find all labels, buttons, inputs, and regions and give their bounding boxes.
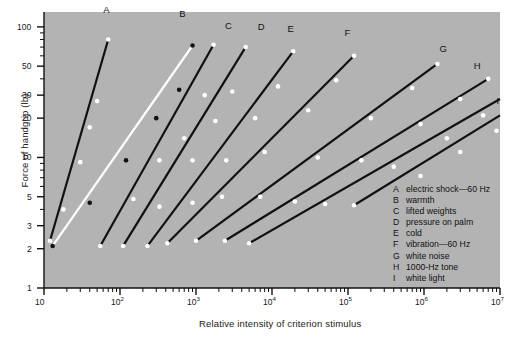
data-point-E [306,108,311,113]
data-point-F [194,238,199,243]
data-point-E [220,194,225,199]
x-tick-label: 10 [35,297,44,307]
legend-item-label: white noise [406,251,449,262]
data-point-A [87,125,92,130]
figure-root: 10102103104105106107 100503020105321 ABC… [0,0,519,341]
data-point-E [334,78,339,83]
legend-item-label: vibration—60 Hz [406,239,470,250]
data-point-F [410,86,415,91]
series-label-B: B [179,8,185,19]
data-point-F [369,116,374,121]
data-point-B2 [98,244,103,249]
data-point-B2 [131,197,136,202]
data-point-F [258,194,263,199]
series-label-G: G [440,43,447,54]
data-point-H [481,113,486,118]
data-point-E [352,54,357,59]
data-point-B [87,200,92,205]
legend-item: Iwhite light [393,273,517,284]
x-tick-label: 105 [339,297,352,307]
data-point-B [190,43,195,48]
data-point-E [262,150,267,155]
data-point-D [145,244,150,249]
legend-item-label: electric shock—60 Hz [406,184,490,195]
data-point-D [224,158,229,163]
x-tick-label: 104 [263,297,276,307]
legend-item-key: I [393,273,406,284]
data-point-I [494,128,499,133]
series-label-F: F [345,27,351,38]
data-point-I [352,203,357,208]
legend-item-label: lifted weights [406,206,456,217]
data-point-A [106,37,111,42]
legend-item-key: H [393,262,406,273]
legend-item: Aelectric shock—60 Hz [393,184,517,195]
legend-item-label: white light [406,273,445,284]
legend-item-key: G [393,251,406,262]
data-point-I [418,174,423,179]
x-tick-label: 107 [491,297,504,307]
legend-item: Clifted weights [393,206,517,217]
data-point-C [121,244,126,249]
data-point-F [315,155,320,160]
legend-item: Gwhite noise [393,251,517,262]
data-point-G [486,77,491,82]
legend-item: Fvibration—60 Hz [393,239,517,250]
legend-item-label: cold [406,228,422,239]
data-point-D [291,49,296,54]
data-point-G [418,122,423,127]
y-tick-label: 50 [22,61,31,71]
data-point-B [177,87,182,92]
y-tick-label: 2 [27,244,32,254]
y-tick-label: 3 [27,221,32,231]
legend-item-key: B [393,195,406,206]
data-point-B [154,116,159,121]
data-point-C [157,204,162,209]
legend-item-label: pressure on palm [406,217,473,228]
series-label-D: D [258,21,265,32]
data-point-B2 [157,158,162,163]
data-point-H [323,202,328,207]
legend-item-key: A [393,184,406,195]
legend-item-key: F [393,239,406,250]
x-tick-label: 106 [415,297,428,307]
series-label-H: H [474,60,481,71]
data-point-D [253,116,258,121]
series-label-C: C [225,20,232,31]
data-point-B [50,244,55,249]
data-point-D [276,84,281,89]
data-point-H [247,241,252,246]
data-point-A [95,99,100,104]
data-point-A [61,207,66,212]
data-point-G [458,97,463,102]
x-tick-label: 103 [187,297,200,307]
legend-item-key: C [393,206,406,217]
data-point-G [359,158,364,163]
legend-item: Bwarmth [393,195,517,206]
series-label-I: I [497,95,500,106]
data-point-A [78,160,83,165]
series-label-E: E [288,23,294,34]
data-point-C [213,119,218,124]
legend-item: H1000-Hz tone [393,262,517,273]
data-point-B [124,158,129,163]
legend-item-label: warmth [406,195,434,206]
legend-item-key: D [393,217,406,228]
data-point-B2 [211,42,216,47]
data-point-E [165,241,170,246]
legend-item: Dpressure on palm [393,217,517,228]
data-point-C [230,89,235,94]
data-point-G [223,238,228,243]
y-tick-label: 100 [17,22,31,32]
data-point-D [190,200,195,205]
data-point-H [445,136,450,141]
legend: Aelectric shock—60 HzBwarmthClifted weig… [393,184,517,284]
legend-item-label: 1000-Hz tone [406,262,458,273]
data-point-G [293,199,298,204]
y-tick-label: 1 [27,283,32,293]
x-tick-label: 102 [111,297,124,307]
data-point-H [391,164,396,169]
data-point-I [458,150,463,155]
data-point-C [243,45,248,50]
data-point-B2 [202,93,207,98]
